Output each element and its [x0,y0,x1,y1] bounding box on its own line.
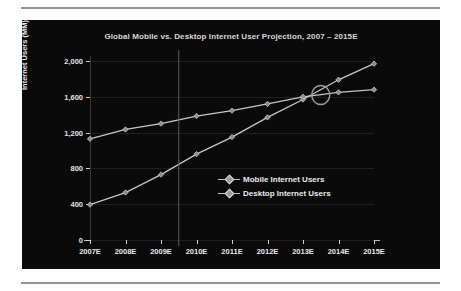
data-point-marker [158,172,163,177]
data-point-marker [265,101,270,106]
y-tick-label: 0 [79,236,83,245]
legend-item-mobile[interactable]: Mobile Internet Users [218,172,388,186]
page-background: Global Mobile vs. Desktop Internet User … [0,0,461,291]
chart-panel: Global Mobile vs. Desktop Internet User … [22,20,440,269]
top-divider-rule [21,7,440,9]
series-plot [22,20,440,269]
x-tick-label: 2007E [79,247,101,256]
chart-title: Global Mobile vs. Desktop Internet User … [22,32,440,41]
x-tick-label: 2014E [328,247,350,256]
x-tick-mark [161,240,162,244]
y-tick-label: 1,600 [64,92,83,101]
x-tick-mark [268,240,269,244]
y-tick-mark [86,133,90,134]
gridline [90,133,374,134]
data-point-marker [194,113,199,118]
x-tick-mark [197,240,198,244]
x-tick-mark [90,240,91,244]
y-tick-mark [86,61,90,62]
x-tick-label: 2015E [363,247,385,256]
x-tick-label: 2010E [186,247,208,256]
y-tick-mark [86,204,90,205]
y-axis-label: Internet Users (MM) [22,20,29,90]
bottom-divider-rule [21,282,440,284]
y-tick-mark [86,168,90,169]
x-tick-mark [126,240,127,244]
data-point-marker [229,134,234,139]
y-tick-mark [86,97,90,98]
data-point-marker [371,87,376,92]
data-point-marker [158,121,163,126]
x-tick-mark [303,240,304,244]
x-tick-label: 2011E [221,247,242,256]
data-point-marker [229,108,234,113]
gridline [90,97,374,98]
data-point-marker [194,151,199,156]
y-tick-label: 400 [70,200,83,209]
gridline [90,168,374,169]
data-point-marker [123,127,128,132]
y-tick-label: 800 [70,164,83,173]
y-tick-label: 2,000 [64,57,83,66]
data-point-marker [123,190,128,195]
legend-item-desktop[interactable]: Desktop Internet Users [218,186,388,200]
crossover-highlight-circle [312,86,330,105]
legend-label-desktop: Desktop Internet Users [243,189,331,198]
legend-label-mobile: Mobile Internet Users [243,175,324,184]
x-tick-label: 2012E [257,247,279,256]
x-tick-label: 2013E [292,247,314,256]
data-point-marker [336,90,341,95]
x-tick-mark [339,240,340,244]
gridline [90,61,374,62]
x-tick-mark [374,240,375,244]
data-point-marker [336,77,341,82]
x-tick-mark [232,240,233,244]
chart-legend: Mobile Internet Users Desktop Internet U… [218,172,388,200]
x-tick-label: 2008E [115,247,137,256]
y-axis-line [90,56,91,244]
data-point-marker [265,115,270,120]
legend-marker-icon [218,175,240,184]
legend-marker-icon [218,189,240,198]
y-tick-label: 1,200 [64,128,83,137]
gridline [90,204,374,205]
x-tick-label: 2009E [150,247,172,256]
